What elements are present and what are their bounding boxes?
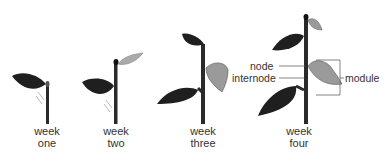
plant-growth-diagram: week one week two week three week four n… [0,0,391,162]
week-number-text: three [173,137,233,149]
week-text: week [86,125,146,137]
week-text: week [173,125,233,137]
plant-week-one [12,73,50,124]
week-number-text: one [17,137,77,149]
week-text: week [269,125,329,137]
week-four-label: week four [269,125,329,149]
week-number-text: four [269,137,329,149]
week-two-label: week two [86,125,146,149]
week-three-label: week three [173,125,233,149]
plant-week-three [157,34,228,124]
node-annotation: node [250,60,273,72]
plant-week-two [82,53,143,124]
week-text: week [17,125,77,137]
module-annotation: module [345,72,379,84]
week-number-text: two [86,137,146,149]
internode-annotation: internode [232,72,276,84]
week-one-label: week one [17,125,77,149]
